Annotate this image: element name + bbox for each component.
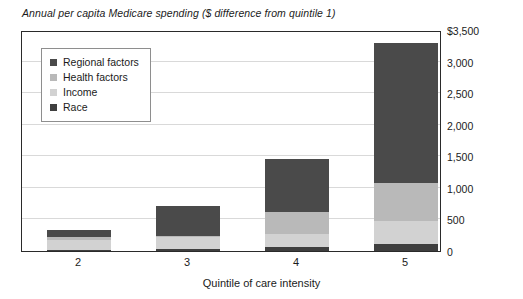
legend-label: Regional factors [63,56,139,68]
bar-segment-income[interactable] [47,240,111,249]
legend-swatch-icon [50,59,57,66]
y-tick-label-3500: $3,500 [447,25,479,37]
legend-swatch-icon [50,74,57,81]
bar-segment-regional-factors[interactable] [47,230,111,237]
bar-segment-health-factors[interactable] [265,212,329,234]
legend-item-regional-factors[interactable]: Regional factors [50,55,139,69]
bar-segment-income[interactable] [156,237,220,249]
legend-label: Health factors [63,71,128,83]
bar-quintile-4[interactable] [265,159,329,251]
y-tick-label-1000: 1,000 [447,183,473,195]
bar-segment-race[interactable] [47,250,111,251]
bar-segment-regional-factors[interactable] [265,159,329,211]
bar-segment-income[interactable] [265,234,329,247]
x-tick-label-5: 5 [373,256,437,268]
y-tick-label-1500: 1,500 [447,151,473,163]
y-tick-label-0: 0 [447,246,453,258]
y-tick-label-500: 500 [447,214,465,226]
x-tick-label-3: 3 [155,256,219,268]
bar-segment-race[interactable] [265,247,329,251]
legend-item-income[interactable]: Income [50,85,139,99]
legend-swatch-icon [50,89,57,96]
x-axis-title: Quintile of care intensity [0,277,523,289]
y-tick-label-2000: 2,000 [447,120,473,132]
x-tick-label-2: 2 [46,256,110,268]
chart-title: Annual per capita Medicare spending ($ d… [22,7,336,19]
legend-item-health-factors[interactable]: Health factors [50,70,139,84]
bar-quintile-5[interactable] [374,43,438,251]
bar-segment-income[interactable] [374,221,438,244]
bar-segment-regional-factors[interactable] [156,206,220,235]
y-tick-label-3000: 3,000 [447,57,473,69]
y-tick-label-2500: 2,500 [447,88,473,100]
legend-item-race[interactable]: Race [50,100,139,114]
legend-label: Race [63,101,88,113]
bar-quintile-3[interactable] [156,206,220,251]
chart-legend: Regional factorsHealth factorsIncomeRace [41,48,151,122]
legend-swatch-icon [50,104,57,111]
bar-segment-health-factors[interactable] [374,183,438,221]
bar-segment-regional-factors[interactable] [374,43,438,183]
bar-segment-race[interactable] [156,249,220,251]
bar-quintile-2[interactable] [47,230,111,251]
legend-label: Income [63,86,97,98]
bar-segment-race[interactable] [374,244,438,251]
x-tick-label-4: 4 [264,256,328,268]
